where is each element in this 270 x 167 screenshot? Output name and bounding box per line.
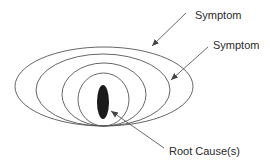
- root-cause-label: Root Cause(s): [169, 146, 240, 157]
- symptom-outer-label: Symptom: [195, 10, 241, 21]
- symptom-outer-arrow: [152, 13, 186, 46]
- root-cause-onion-diagram: [0, 0, 270, 167]
- root-cause-core: [97, 85, 109, 119]
- symptom-inner-label: Symptom: [213, 40, 259, 51]
- root-cause-arrow: [111, 111, 164, 148]
